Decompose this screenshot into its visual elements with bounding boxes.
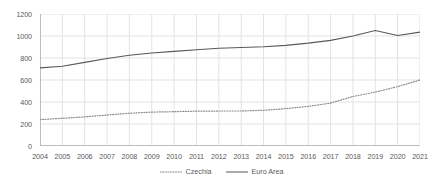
legend-item-czechia[interactable]: Czechia [160, 168, 212, 175]
x-axis-tick-label: 2011 [184, 152, 208, 161]
x-axis-tick-label: 2016 [296, 152, 320, 161]
plot-svg [40, 14, 420, 146]
x-axis-tick-label: 2018 [341, 152, 365, 161]
plot-area [40, 14, 420, 146]
y-axis-tick-label: 800 [6, 54, 32, 63]
line-chart: 020040060080010001200 200420052006200720… [0, 0, 443, 190]
legend-swatch-icon [160, 169, 182, 175]
x-axis-tick-label: 2015 [274, 152, 298, 161]
y-axis-tick-label: 0 [6, 142, 32, 151]
x-axis-tick-label: 2010 [162, 152, 186, 161]
legend-label: Czechia [186, 168, 212, 175]
y-axis-tick-label: 200 [6, 120, 32, 129]
y-axis-tick-label: 600 [6, 76, 32, 85]
x-axis-tick-label: 2013 [229, 152, 253, 161]
x-axis-tick-label: 2005 [50, 152, 74, 161]
legend-label: Euro Area [252, 168, 284, 175]
x-axis-tick-label: 2007 [95, 152, 119, 161]
series-line-czechia [40, 80, 420, 120]
legend-item-euro-area[interactable]: Euro Area [226, 168, 284, 175]
x-axis-tick-label: 2017 [319, 152, 343, 161]
legend-swatch-icon [226, 169, 248, 175]
chart-legend: CzechiaEuro Area [0, 168, 443, 175]
x-axis-tick-label: 2009 [140, 152, 164, 161]
y-axis-tick-label: 1200 [6, 10, 32, 19]
x-axis-tick-label: 2008 [117, 152, 141, 161]
x-axis-tick-label: 2012 [207, 152, 231, 161]
x-axis-tick-label: 2019 [363, 152, 387, 161]
x-axis-tick-label: 2021 [408, 152, 432, 161]
y-axis-tick-label: 1000 [6, 32, 32, 41]
x-axis-tick-label: 2004 [28, 152, 52, 161]
y-axis-tick-label: 400 [6, 98, 32, 107]
x-axis-tick-label: 2014 [252, 152, 276, 161]
x-axis-tick-label: 2006 [73, 152, 97, 161]
x-axis-tick-label: 2020 [386, 152, 410, 161]
